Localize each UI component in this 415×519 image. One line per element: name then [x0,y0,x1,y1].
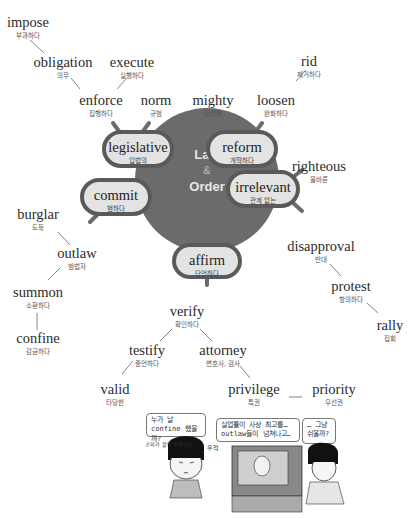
word-norm: norm 규범 [141,93,172,117]
word-verify: verify 확인하다 [170,304,205,328]
comic-illustration: 코피가 왈칵 쏟아지는… 우적 [140,436,360,516]
pill-affirm: affirm 단언하다 [172,243,242,279]
word-outlaw: outlaw 범법자 [57,246,96,270]
word-loosen: loosen 완화하다 [257,93,295,117]
hub-title-order: Order [189,180,224,193]
word-privilege: privilege 특권 [228,382,280,406]
word-burglar: burglar 도둑 [17,207,59,231]
word-righteous: righteous 올바른 [292,159,346,183]
word-obligation: obligation 의무 [34,55,93,79]
word-confine: confine 감금하다 [16,331,59,355]
word-impose: impose 부과하다 [7,15,49,39]
word-testify: testify 증언하다 [129,343,165,367]
cartoon-man-right-icon [306,443,344,504]
word-rid: rid 제거하다 [297,54,321,78]
svg-text:코피가 왈칵 쏟아지는…: 코피가 왈칵 쏟아지는… [145,441,198,448]
cartoon-man-left-icon: 코피가 왈칵 쏟아지는… 우적 [145,436,219,498]
word-rally: rally 집회 [377,318,404,342]
word-valid: valid 타당한 [101,382,130,406]
pill-reform: reform 개혁하다 [206,130,278,168]
word-disapproval: disapproval 반대 [287,239,355,263]
pill-legislative: legislative 입법의 [102,130,174,168]
word-priority: priority 우선권 [312,382,356,406]
word-summon: summon 소환하다 [13,285,63,309]
word-attorney: attorney 변호사, 검사 [199,343,247,367]
word-enforce: enforce 집행하다 [79,93,122,117]
svg-text:우적: 우적 [207,444,219,452]
word-execute: execute 실행하다 [110,55,154,79]
speech-bubble-1: 누가 날 confine 했을까? [146,413,206,437]
law-order-mindmap: Law & Order legislative 입법의 reform 개혁하다 … [0,0,415,519]
pill-commit: commit 범하다 [80,178,152,216]
word-mighty: mighty 강력한 [192,93,233,117]
television-icon [232,446,302,512]
word-protest: protest 항의하다 [331,279,370,303]
pill-irrelevant: irrelevant 관계 없는 [226,170,300,208]
